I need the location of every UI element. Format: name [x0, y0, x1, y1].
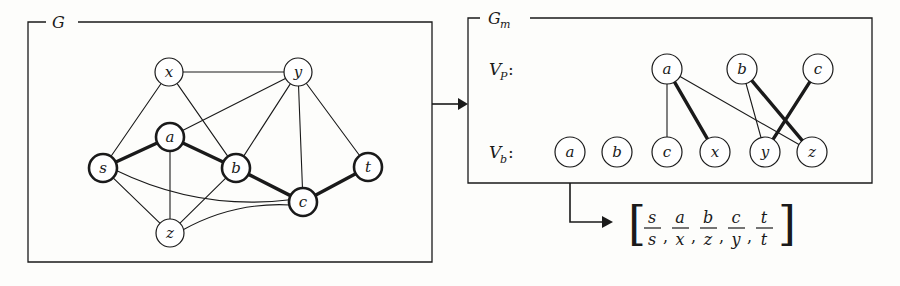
- graph-gm-base-node-bb[interactable]: b: [602, 137, 632, 167]
- pair-denominator: x: [675, 230, 684, 249]
- panel-g-label: G: [52, 13, 65, 32]
- node-label: b: [231, 159, 241, 177]
- pair-numerator: b: [703, 208, 713, 227]
- close-bracket: ]: [778, 197, 796, 251]
- panel-graph-g: [28, 22, 432, 262]
- node-label: y: [760, 143, 770, 161]
- graph-g-node-t[interactable]: t: [354, 153, 382, 181]
- pair-separator: ,: [747, 227, 752, 246]
- arrow-head: [602, 216, 613, 228]
- node-label: z: [807, 143, 816, 161]
- pair-denominator: y: [730, 230, 741, 249]
- graph-g-edge-s-a: [115, 142, 158, 162]
- svg-text:m: m: [500, 18, 510, 31]
- pair-numerator: t: [761, 208, 768, 227]
- graph-gm-pattern-node-pb[interactable]: b: [727, 54, 757, 84]
- graph-gm-pattern-node-pc[interactable]: c: [803, 54, 833, 84]
- graph-g-edge-y-c: [298, 85, 302, 189]
- substitution-pair-2: bz: [700, 208, 717, 249]
- graph-g-edge-y-b: [243, 83, 291, 157]
- substitution-pair-3: cy: [728, 208, 745, 249]
- graph-gm-base-node-bz[interactable]: z: [797, 137, 827, 167]
- graph-g-edge-y-t: [306, 82, 361, 156]
- node-label: b: [737, 60, 747, 78]
- row-label-vb: Vb:: [489, 142, 514, 166]
- graph-g-edge-layer: [110, 72, 360, 230]
- node-label: x: [711, 143, 720, 161]
- figure-canvas: xyasbctz abcabcxyz GGmVP:Vb: [ss,ax,bz,c…: [0, 0, 900, 286]
- graph-g-edge-s-z: [112, 177, 160, 224]
- graph-gm-base-node-bx[interactable]: x: [700, 137, 730, 167]
- graph-g-node-a[interactable]: a: [156, 123, 184, 151]
- pair-denominator: t: [761, 230, 768, 249]
- transform-arrow: [432, 98, 468, 110]
- node-label: y: [293, 63, 303, 81]
- node-label: a: [663, 60, 672, 78]
- graph-gm-pattern-node-pa[interactable]: a: [652, 54, 682, 84]
- graph-gm-edge-pa-bz: [679, 76, 800, 145]
- graph-g-node-x[interactable]: x: [155, 58, 183, 86]
- pair-separator: ,: [691, 227, 696, 246]
- graph-g-edge-z-c: [183, 205, 291, 230]
- node-label: a: [166, 128, 175, 146]
- arrow-head: [458, 98, 468, 110]
- svg-text:b: b: [500, 153, 507, 166]
- graph-g-edge-y-a: [182, 78, 287, 131]
- node-label: t: [365, 158, 372, 176]
- pair-numerator: c: [732, 208, 741, 227]
- substitution-pair-4: tt: [756, 208, 773, 249]
- graph-g-node-c[interactable]: c: [289, 188, 317, 216]
- graph-gm-edge-layer: [667, 76, 810, 145]
- open-bracket: [: [628, 197, 646, 251]
- graph-g-node-y[interactable]: y: [284, 58, 312, 86]
- result-arrow: [570, 183, 613, 228]
- node-label: c: [814, 60, 823, 78]
- panel-gm-label: Gm: [488, 9, 510, 31]
- node-label: s: [99, 159, 107, 177]
- graph-gm-base-node-by[interactable]: y: [750, 137, 780, 167]
- svg-text:P: P: [499, 70, 508, 83]
- pair-separator: ,: [663, 227, 668, 246]
- node-label: a: [566, 143, 575, 161]
- arrow-layer: [432, 98, 613, 228]
- arrow-shaft: [570, 183, 603, 222]
- pair-denominator: s: [648, 230, 656, 249]
- graph-g-edge-c-t: [314, 173, 356, 196]
- result-expression: [ss,ax,bz,cy,tt]: [628, 197, 796, 251]
- substitution-pair-0: ss: [644, 208, 661, 249]
- pair-numerator: a: [675, 208, 685, 227]
- svg-text::: :: [508, 59, 514, 79]
- graph-g-node-b[interactable]: b: [222, 154, 250, 182]
- graph-g-node-s[interactable]: s: [89, 154, 117, 182]
- row-label-vp: VP:: [489, 59, 514, 83]
- pair-denominator: z: [703, 230, 713, 249]
- svg-text::: :: [508, 142, 514, 162]
- graph-g-node-z[interactable]: z: [156, 219, 184, 247]
- svg-text:G: G: [52, 13, 65, 32]
- node-label: z: [165, 224, 174, 242]
- substitution-list: [ss,ax,bz,cy,tt]: [628, 197, 796, 251]
- label-layer: GGmVP:Vb:: [52, 9, 514, 166]
- graph-g-edge-a-b: [182, 143, 224, 163]
- pair-separator: ,: [719, 227, 724, 246]
- graph-gm-base-node-bc[interactable]: c: [652, 137, 682, 167]
- graph-gm-base-node-ba[interactable]: a: [555, 137, 585, 167]
- pair-numerator: s: [648, 208, 656, 227]
- node-label: c: [299, 193, 308, 211]
- graph-g-edge-b-c: [248, 174, 292, 196]
- node-label: b: [612, 143, 622, 161]
- node-label: x: [165, 63, 174, 81]
- diagram-svg: xyasbctz abcabcxyz GGmVP:Vb: [ss,ax,bz,c…: [0, 0, 900, 286]
- substitution-pair-1: ax: [672, 208, 689, 249]
- graph-g-edge-s-c: [116, 170, 290, 202]
- node-label: c: [663, 143, 672, 161]
